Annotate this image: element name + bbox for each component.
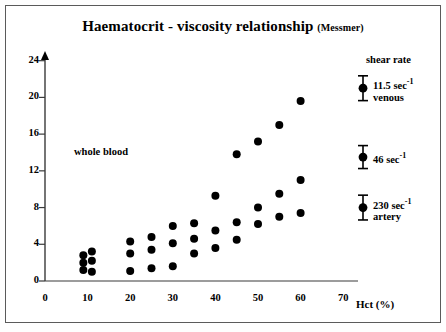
- data-point: [254, 204, 262, 212]
- legend-entry-exponent: -1: [405, 197, 412, 206]
- x-tick-label: 50: [244, 292, 272, 303]
- data-point: [169, 262, 177, 270]
- data-point: [126, 249, 134, 257]
- data-point: [126, 267, 134, 275]
- data-point: [190, 219, 198, 227]
- x-axis-label: Hct (%): [356, 298, 394, 310]
- y-tick-label: 20: [15, 90, 39, 101]
- legend-entry: 230 sec-1artery: [373, 196, 411, 224]
- data-point: [211, 227, 219, 235]
- data-point: [88, 257, 96, 265]
- data-point: [233, 150, 241, 158]
- whole-blood-annotation: whole blood: [74, 146, 128, 157]
- data-point: [79, 259, 87, 267]
- data-point: [79, 266, 87, 274]
- data-point: [148, 233, 156, 241]
- x-tick-label: 40: [201, 292, 229, 303]
- x-tick-label: 0: [31, 292, 59, 303]
- data-point: [148, 264, 156, 272]
- legend-entry-exponent: -1: [407, 77, 414, 86]
- y-tick-label: 16: [15, 127, 39, 138]
- data-point: [79, 251, 87, 259]
- data-point: [297, 97, 305, 105]
- data-point: [211, 192, 219, 200]
- data-point: [169, 239, 177, 247]
- plot-graphics: [39, 51, 368, 281]
- data-point: [254, 137, 262, 145]
- data-point: [275, 213, 283, 221]
- data-point: [126, 238, 134, 246]
- data-point: [88, 248, 96, 256]
- legend-entry-value: 46 sec-1: [373, 150, 406, 166]
- legend-entry-subtitle: artery: [373, 211, 411, 223]
- data-point: [297, 176, 305, 184]
- data-point: [254, 220, 262, 228]
- shear-rate-heading: shear rate: [366, 54, 411, 65]
- legend-entry-value: 11.5 sec-1: [373, 76, 414, 92]
- data-point: [275, 121, 283, 129]
- data-point: [211, 244, 219, 252]
- x-tick-label: 70: [329, 292, 357, 303]
- data-point: [233, 236, 241, 244]
- data-point: [275, 190, 283, 198]
- x-tick-label: 10: [74, 292, 102, 303]
- y-tick-label: 24: [15, 54, 39, 65]
- legend-entry-value: 230 sec-1: [373, 196, 411, 212]
- legend-entry: 11.5 sec-1venous: [373, 76, 414, 104]
- x-tick-label: 30: [159, 292, 187, 303]
- y-tick-label: 12: [15, 164, 39, 175]
- data-point: [148, 246, 156, 254]
- data-point: [233, 218, 241, 226]
- legend-entry-exponent: -1: [400, 151, 407, 160]
- legend-entry-subtitle: venous: [373, 92, 414, 104]
- data-point: [190, 249, 198, 257]
- figure-root: Haematocrit - viscosity relationship (Me…: [0, 0, 446, 332]
- data-point: [297, 209, 305, 217]
- data-point: [88, 268, 96, 276]
- x-tick-label: 60: [287, 292, 315, 303]
- legend-entry: 46 sec-1: [373, 150, 406, 166]
- chart-panel: Haematocrit - viscosity relationship (Me…: [5, 5, 441, 323]
- y-tick-label: 4: [15, 237, 39, 248]
- legend-marker: [359, 153, 368, 162]
- y-tick-label: 0: [15, 274, 39, 285]
- data-point: [169, 222, 177, 230]
- legend-marker: [359, 203, 368, 212]
- data-point: [190, 235, 198, 243]
- legend-marker: [359, 84, 368, 93]
- x-tick-label: 20: [116, 292, 144, 303]
- y-tick-label: 8: [15, 201, 39, 212]
